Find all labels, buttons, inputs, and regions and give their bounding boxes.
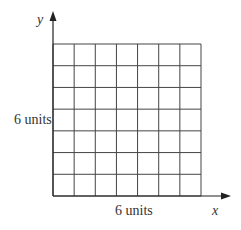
x-axis-label: x (211, 203, 219, 218)
width-label: 6 units (115, 203, 153, 218)
y-axis-arrow-icon (50, 11, 57, 21)
height-label: 6 units (14, 112, 52, 127)
x-axis-arrow-icon (221, 193, 231, 200)
grid-diagram: y x 6 units 6 units (0, 0, 241, 230)
grid (53, 44, 201, 196)
y-axis-label: y (35, 12, 44, 27)
